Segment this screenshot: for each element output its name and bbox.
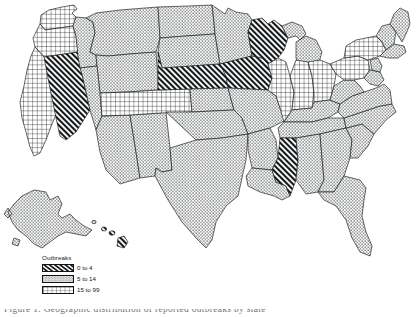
state-pennsylvania xyxy=(330,56,370,80)
state-kansas xyxy=(190,88,234,112)
figure-caption-text: Figure 1. Geographic distribution of rep… xyxy=(4,309,266,314)
state-hawaii xyxy=(92,220,128,248)
state-arkansas xyxy=(248,128,278,170)
legend-title: Outbreaks xyxy=(42,254,162,262)
legend-item-15-to-99[interactable]: 15 to 99 xyxy=(42,285,162,295)
legend-item-5-to-14[interactable]: 5 to 14 xyxy=(42,274,162,284)
legend-swatch-grid xyxy=(42,286,74,295)
state-alaska xyxy=(4,190,92,248)
figure-caption-clipped: Figure 1. Geographic distribution of rep… xyxy=(0,309,418,317)
legend-label-5-to-14: 5 to 14 xyxy=(77,275,96,283)
state-montana xyxy=(86,7,160,56)
state-wyoming xyxy=(96,52,158,93)
state-southdakota xyxy=(158,34,220,68)
legend-label-15-to-99: 15 to 99 xyxy=(77,286,99,294)
legend-label-0-to-4: 0 to 4 xyxy=(77,264,92,272)
state-northdakota xyxy=(158,5,215,38)
legend-swatch-diagonal-hatch xyxy=(42,264,74,273)
legend-swatch-stipple-dots xyxy=(42,275,74,284)
map-legend: Outbreaks 0 to 4 xyxy=(42,254,162,296)
figure-container: Outbreaks 0 to 4 xyxy=(0,0,418,317)
legend-item-0-to-4[interactable]: 0 to 4 xyxy=(42,263,162,273)
state-oklahoma xyxy=(166,110,248,140)
state-newjersey xyxy=(370,58,382,72)
state-alabama xyxy=(296,134,324,194)
